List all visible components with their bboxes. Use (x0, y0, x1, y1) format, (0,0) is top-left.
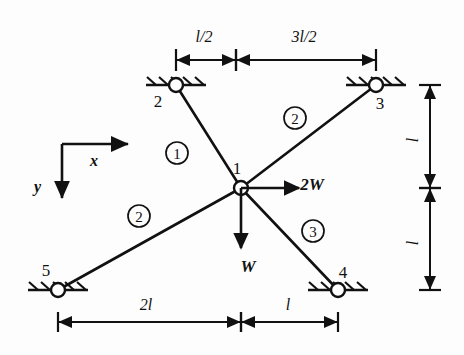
node-label-3: 3 (376, 94, 385, 113)
node-label-2: 2 (154, 92, 163, 111)
dim-3l-over-2-label: 3l/2 (291, 28, 317, 45)
truss-diagram-canvas: 1223 12345 2WW l/23l/22llll x y (0, 0, 464, 355)
dim-l-lower-label: l (404, 240, 421, 245)
dim-2l: 2l (58, 296, 241, 332)
node-circle-5[interactable] (51, 283, 65, 297)
nodes-group: 12345 (42, 78, 385, 297)
load-horizontal-label: 2W (299, 175, 326, 194)
member-label-m2: 2 (291, 111, 299, 127)
dim-l: l (241, 296, 338, 332)
dim-l-over-2: l/2 (176, 28, 236, 71)
node-circle-4[interactable] (331, 283, 345, 297)
member-m1 (176, 85, 241, 188)
y-axis-label: y (32, 178, 42, 196)
node-circle-3[interactable] (369, 78, 383, 92)
node-label-1: 1 (233, 159, 242, 178)
supports-group (28, 77, 406, 290)
coordinate-axes: x y (32, 144, 128, 198)
load-vertical-label: W (240, 257, 257, 276)
node-label-5: 5 (42, 261, 51, 280)
member-m2 (241, 85, 376, 188)
dim-l-label: l (286, 296, 291, 313)
node-circle-2[interactable] (169, 78, 183, 92)
dim-l-over-2-label: l/2 (196, 28, 213, 45)
member-m3 (58, 188, 241, 290)
dim-2l-label: 2l (140, 296, 153, 313)
node-label-4: 4 (339, 263, 348, 282)
members-group: 1223 (58, 85, 376, 290)
dim-l-lower: l (404, 188, 441, 290)
truss-figure: 1223 12345 2WW l/23l/22llll x y (0, 0, 464, 355)
member-label-m3: 2 (135, 209, 143, 225)
member-label-m1: 1 (173, 146, 181, 162)
dim-3l-over-2: 3l/2 (236, 28, 376, 71)
dim-l-upper: l (404, 85, 441, 188)
x-axis-label: x (89, 152, 98, 169)
member-label-m4: 3 (309, 224, 317, 240)
dim-l-upper-label: l (404, 137, 421, 142)
